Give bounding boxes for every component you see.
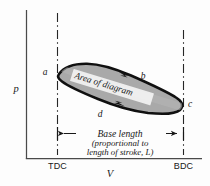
indicator-diagram-figure: Area of diagram a b c d Base length (pro… [0, 0, 210, 186]
point-label-a: a [43, 67, 48, 77]
point-label-c: c [188, 99, 193, 109]
figure-canvas: Area of diagram a b c d Base length (pro… [0, 0, 210, 186]
point-label-b: b [141, 71, 146, 81]
pressure-axis-label: p [12, 83, 18, 94]
dead-centre-markers: TDC BDC [48, 161, 194, 171]
caption-line-1: Base length [97, 128, 142, 139]
point-label-d: d [98, 109, 103, 119]
caption-line-3: length of stroke, L) [87, 147, 154, 157]
bdc-marker-label: BDC [174, 161, 194, 171]
volume-axis-label: V [107, 168, 115, 179]
tdc-marker-label: TDC [48, 161, 67, 171]
